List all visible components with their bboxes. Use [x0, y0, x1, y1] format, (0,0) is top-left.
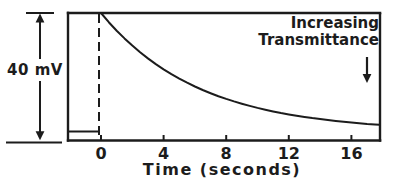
x-tick-label: 16 — [336, 144, 366, 163]
x-tick-label: 12 — [274, 144, 304, 163]
arrow-up-icon — [36, 14, 45, 23]
transmittance-direction-arrow — [363, 57, 372, 83]
x-tick-label: 8 — [211, 144, 241, 163]
transmittance-annotation: Increasing Transmittance — [257, 15, 379, 49]
figure-canvas: 40 mV Increasing Transmittance Time (sec… — [0, 0, 400, 192]
amplitude-label: 40 mV — [4, 61, 66, 79]
arrow-down-icon — [363, 74, 372, 83]
arrow-down-icon — [36, 131, 45, 140]
x-tick-label: 0 — [86, 144, 116, 163]
x-tick-label: 4 — [149, 144, 179, 163]
